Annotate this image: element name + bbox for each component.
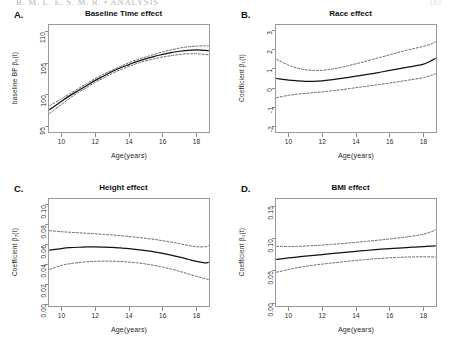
estimate-curve <box>50 50 209 110</box>
tick-label: 14 <box>125 312 133 319</box>
tick-label: 0.06 <box>40 245 47 258</box>
panel-a-plot-area <box>48 24 210 133</box>
panel-a-y-axis: 95100105110 <box>0 24 48 133</box>
tick-label: 0.00 <box>267 303 274 316</box>
tick-mark <box>322 133 323 137</box>
panel-d: D. BMI effect 0.000.050.100.15 Coefficie… <box>227 180 454 358</box>
panel-a-y-axis-label: baseline BP β₀(t) <box>11 28 18 128</box>
panel-b-x-axis-label: Age(years) <box>275 152 437 159</box>
panel-b-y-axis: -2-10123 <box>227 24 275 133</box>
tick-mark <box>61 307 62 311</box>
tick-mark <box>322 307 323 311</box>
tick-label: 2 <box>267 50 274 54</box>
confidence-band-curve <box>277 257 436 272</box>
tick-label: 0.04 <box>40 264 47 277</box>
tick-label: -1 <box>267 107 274 113</box>
tick-label: 0 <box>267 88 274 92</box>
panel-b-plot-area <box>275 24 437 133</box>
tick-label: 12 <box>318 138 326 145</box>
tick-label: 16 <box>386 312 394 319</box>
tick-mark <box>423 307 424 311</box>
confidence-band-curve <box>50 46 209 106</box>
panel-c-plot-area <box>48 198 210 307</box>
panel-c-title: Height effect <box>0 183 227 192</box>
panel-d-title: BMI effect <box>227 183 454 192</box>
tick-label: 100 <box>40 95 47 106</box>
tick-label: 12 <box>318 312 326 319</box>
tick-label: -2 <box>267 126 274 132</box>
tick-label: 0.00 <box>40 304 47 317</box>
tick-mark <box>389 307 390 311</box>
tick-label: 16 <box>159 138 167 145</box>
tick-label: 16 <box>159 312 167 319</box>
tick-label: 12 <box>91 312 99 319</box>
tick-label: 3 <box>267 31 274 35</box>
tick-label: 18 <box>193 138 201 145</box>
tick-label: 10 <box>58 138 66 145</box>
tick-label: 18 <box>193 312 201 319</box>
tick-label: 10 <box>285 312 293 319</box>
tick-mark <box>288 307 289 311</box>
tick-label: 0.10 <box>267 239 274 252</box>
tick-mark <box>95 133 96 137</box>
panel-b-y-axis-label: Coefficient β₁(t) <box>238 28 245 128</box>
tick-mark <box>95 307 96 311</box>
tick-mark <box>196 133 197 137</box>
panel-d-x-axis-label: Age(years) <box>275 326 437 333</box>
tick-label: 0.05 <box>267 271 274 284</box>
figure-page: R. M. L. E. S. M. R. • ANALYSIS 183 A. B… <box>0 0 455 359</box>
confidence-band-curve <box>50 231 209 247</box>
confidence-band-curve <box>50 54 209 114</box>
tick-label: 12 <box>91 138 99 145</box>
tick-mark <box>129 133 130 137</box>
panel-c-y-axis: 0.000.020.040.060.080.10 <box>0 198 48 307</box>
panel-a-title: Baseline Time effect <box>0 9 227 18</box>
tick-label: 1 <box>267 69 274 73</box>
panel-b-title: Race effect <box>227 9 454 18</box>
estimate-curve <box>277 58 436 81</box>
estimate-curve <box>50 247 209 263</box>
tick-label: 10 <box>285 138 293 145</box>
tick-mark <box>423 133 424 137</box>
tick-label: 10 <box>58 312 66 319</box>
tick-label: 105 <box>40 63 47 74</box>
confidence-band-curve <box>50 261 209 279</box>
panel-a: A. Baseline Time effect 95100105110 base… <box>0 6 227 184</box>
tick-mark <box>162 307 163 311</box>
tick-label: 0.02 <box>40 284 47 297</box>
tick-label: 14 <box>125 138 133 145</box>
confidence-band-curve <box>277 230 436 247</box>
panel-a-x-axis-label: Age(years) <box>48 152 210 159</box>
panel-b-curves <box>275 24 437 133</box>
panel-b: B. Race effect -2-10123 Coefficient β₁(t… <box>227 6 454 184</box>
panel-c-x-axis-label: Age(years) <box>48 326 210 333</box>
tick-label: 18 <box>420 138 428 145</box>
tick-label: 0.15 <box>267 206 274 219</box>
panel-c-curves <box>48 198 210 307</box>
panel-c-y-axis-label: Coefficient β₂(t) <box>11 202 18 302</box>
tick-label: 95 <box>40 127 47 135</box>
estimate-curve <box>277 246 436 259</box>
tick-mark <box>162 133 163 137</box>
tick-label: 14 <box>352 138 360 145</box>
tick-label: 110 <box>40 32 47 43</box>
panel-d-y-axis-label: Coefficient β₃(t) <box>238 202 245 302</box>
tick-mark <box>356 133 357 137</box>
tick-label: 0.10 <box>40 205 47 218</box>
tick-mark <box>196 307 197 311</box>
tick-mark <box>129 307 130 311</box>
tick-mark <box>61 133 62 137</box>
tick-mark <box>389 133 390 137</box>
panel-d-curves <box>275 198 437 307</box>
tick-label: 0.08 <box>40 225 47 238</box>
panel-a-curves <box>48 24 210 133</box>
tick-label: 14 <box>352 312 360 319</box>
tick-label: 16 <box>386 138 394 145</box>
panel-d-y-axis: 0.000.050.100.15 <box>227 198 275 307</box>
panel-c: C. Height effect 0.000.020.040.060.080.1… <box>0 180 227 358</box>
tick-mark <box>288 133 289 137</box>
tick-label: 18 <box>420 312 428 319</box>
tick-mark <box>356 307 357 311</box>
panel-d-plot-area <box>275 198 437 307</box>
confidence-band-curve <box>277 74 436 98</box>
